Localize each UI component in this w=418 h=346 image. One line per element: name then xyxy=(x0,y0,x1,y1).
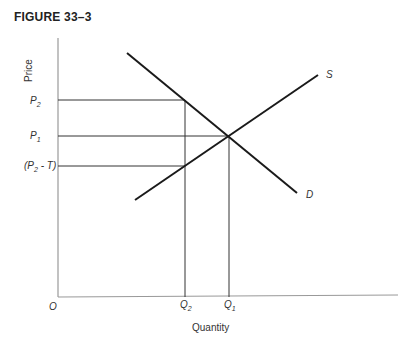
q1-label: Q1 xyxy=(224,299,236,312)
supply-curve xyxy=(135,75,318,200)
supply-label: S xyxy=(326,69,333,80)
y-axis-label: Price xyxy=(23,59,34,82)
p2-minus-t-label: (P2 - T) xyxy=(24,160,56,173)
q2-label: Q2 xyxy=(180,299,192,312)
origin-label: O xyxy=(49,301,57,312)
x-axis xyxy=(58,295,398,297)
p1-label: P1 xyxy=(30,130,41,143)
x-axis-label: Quantity xyxy=(192,322,229,333)
demand-curve xyxy=(127,53,297,193)
p2-label: P2 xyxy=(30,95,41,108)
supply-demand-diagram: S D Price P2 P1 (P2 - T) O Q2 Q1 Quantit… xyxy=(0,0,418,346)
demand-label: D xyxy=(306,189,313,200)
